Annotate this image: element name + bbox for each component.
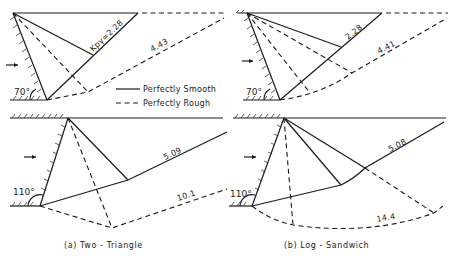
rough-failure-curve (252, 206, 443, 229)
wall-hatch (255, 125, 281, 190)
panel-b-bottom: 110° 5.08 14.4 (b) Log - Sandwich (229, 114, 446, 250)
panel-a-bottom: 110° 5.09 10.1 (a) Two - Triangle (10, 114, 227, 250)
smooth-coefficient-label: 5.09 (162, 146, 183, 162)
wall-hatch (41, 125, 65, 190)
wall-angle-label: 70° (246, 87, 262, 97)
rough-fan-line-1 (247, 13, 352, 73)
passive-earth-pressure-diagram: 70° Kpγ=2.28 4.43 Perfectly Smooth Perfe… (0, 0, 454, 260)
rough-coefficient-label: 4.43 (149, 37, 170, 54)
arrow-icon (6, 63, 18, 67)
smooth-coefficient-label: 2.28 (344, 23, 365, 42)
arrow-icon (242, 59, 253, 63)
rough-fan-line (284, 118, 293, 225)
wall-angle-label: 110° (230, 189, 252, 199)
smooth-fan-line-1 (284, 118, 341, 185)
rough-coefficient-label: 10.1 (176, 188, 197, 202)
smooth-wedge-line (68, 118, 128, 180)
wall-line (40, 118, 68, 206)
arrow-icon (244, 155, 256, 159)
rough-coefficient-label: 14.4 (376, 212, 396, 224)
wall-angle-label: 70° (14, 87, 30, 97)
smooth-fan-line-2 (284, 118, 365, 168)
rough-wedge-line (13, 13, 88, 92)
angle-arc (30, 89, 36, 100)
rough-wedge-line (68, 118, 112, 228)
smooth-coefficient-label: 5.08 (387, 137, 408, 154)
rough-wedge-line (365, 168, 434, 213)
wall-line (252, 118, 284, 206)
arrow-icon (24, 155, 36, 159)
wall-angle-label: 110° (13, 187, 35, 197)
caption-a: (a) Two - Triangle (64, 241, 143, 250)
legend: Perfectly Smooth Perfectly Rough (116, 85, 216, 108)
caption-b: (b) Log - Sandwich (284, 241, 369, 250)
legend-rough-label: Perfectly Rough (143, 99, 210, 108)
smooth-failure-line (252, 122, 444, 206)
wall-hatch (10, 17, 41, 92)
smooth-wedge-line (247, 13, 341, 47)
smooth-wedge-line (13, 13, 93, 55)
rough-failure-line (40, 189, 227, 228)
panel-b-top: 70° 2.28 4.41 (236, 10, 448, 100)
smooth-failure-line (40, 132, 227, 206)
smooth-failure-line (280, 13, 382, 100)
legend-smooth-label: Perfectly Smooth (143, 85, 216, 94)
smooth-coefficient-label: Kpγ=2.28 (88, 18, 125, 53)
rough-coefficient-label: 4.41 (376, 39, 397, 56)
smooth-failure-line (47, 13, 138, 100)
